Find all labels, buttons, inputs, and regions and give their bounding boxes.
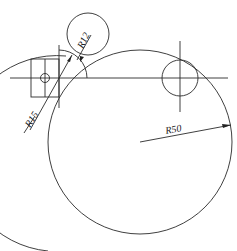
r50-leader xyxy=(140,125,231,142)
r15-arrowhead xyxy=(67,55,72,62)
r50-label: R50 xyxy=(163,122,182,136)
construction-arc xyxy=(0,56,66,251)
r15-label: R15 xyxy=(22,110,40,130)
r12-label: R12 xyxy=(74,31,91,51)
r12-arrowhead xyxy=(80,56,84,62)
technical-drawing: R12 R15 R50 xyxy=(0,0,237,251)
r50-arrowhead xyxy=(222,124,231,128)
